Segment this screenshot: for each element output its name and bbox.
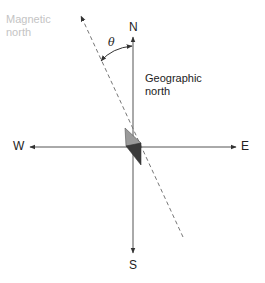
magnetic-north-label-line2: north <box>6 26 51 39</box>
geographic-north-label-line1: Geographic <box>145 72 202 85</box>
geographic-north-label-line2: north <box>145 85 202 98</box>
north-label: N <box>129 21 138 34</box>
theta-angle-label: θ <box>108 36 115 49</box>
west-label: W <box>13 140 24 153</box>
compass-diagram <box>0 0 265 283</box>
magnetic-north-label-line1: Magnetic <box>6 13 51 26</box>
south-label: S <box>129 259 137 272</box>
declination-angle-arc <box>101 46 132 61</box>
magnetic-north-line <box>81 16 183 237</box>
geographic-north-label: Geographic north <box>145 72 202 98</box>
east-label: E <box>241 140 249 153</box>
magnetic-north-label: Magnetic north <box>6 13 51 39</box>
